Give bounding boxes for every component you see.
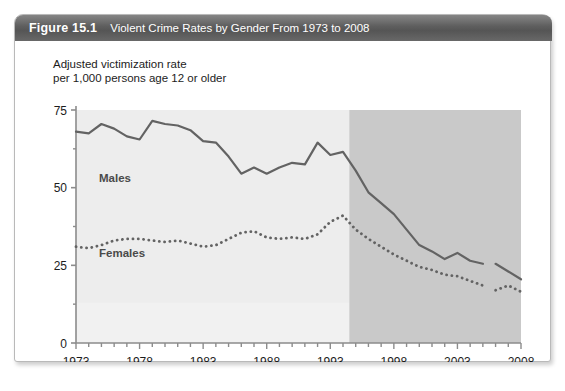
x-tick-label: 1973: [63, 355, 90, 362]
x-tick-label: 1978: [126, 355, 153, 362]
series-label-males: Males: [99, 172, 131, 184]
x-tick-label: 2003: [444, 355, 471, 362]
x-tick-label: 1983: [190, 355, 217, 362]
x-tick-label: 1988: [253, 355, 280, 362]
y-tick-label: 75: [54, 104, 68, 118]
figure-card: Figure 15.1 Violent Crime Rates by Gende…: [14, 14, 551, 362]
x-tick-label: 1993: [317, 355, 344, 362]
y-tick-label: 50: [54, 181, 68, 195]
chart-area: Adjusted victimization rate per 1,000 pe…: [15, 41, 552, 362]
y-tick-label: 25: [54, 259, 68, 273]
figure-title: Violent Crime Rates by Gender From 1973 …: [110, 22, 369, 34]
figure-header-bar: Figure 15.1 Violent Crime Rates by Gende…: [15, 15, 552, 41]
y-tick-label: 0: [60, 337, 67, 351]
x-tick-label: 1998: [381, 355, 408, 362]
line-chart: 025507519731978198319881993199820032008M…: [15, 41, 552, 362]
figure-number: Figure 15.1: [29, 21, 97, 35]
series-label-females: Females: [99, 247, 145, 259]
x-tick-label: 2008: [508, 355, 535, 362]
shaded-region: [349, 110, 521, 343]
